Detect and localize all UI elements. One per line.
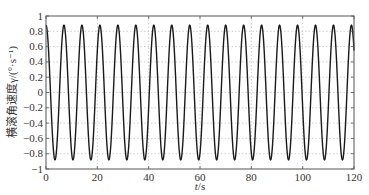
y-tick-label: −0.6: [23, 132, 43, 144]
y-tick-label: 1: [38, 10, 44, 22]
x-tick-label: 20: [92, 171, 104, 183]
y-tick-label: −0.4: [23, 117, 43, 129]
y-tick-label: −0.2: [23, 101, 43, 113]
x-axis-title: t/s: [195, 180, 205, 192]
x-tick-label: 0: [43, 171, 49, 183]
x-tick-label: 120: [346, 171, 363, 183]
y-axis-title: 横滚角速度γ/(°·s⁻¹): [5, 46, 19, 138]
y-tick-label: 0.8: [29, 25, 43, 37]
y-tick-label: 0: [38, 86, 44, 98]
x-tick-label: 100: [294, 171, 311, 183]
y-tick-label: −1: [31, 163, 43, 175]
x-tick-label: 80: [246, 171, 258, 183]
y-tick-label: 0.2: [29, 71, 43, 83]
y-tick-label: 0.6: [29, 40, 43, 52]
y-tick-label: −0.8: [23, 147, 43, 159]
x-tick-label: 40: [143, 171, 155, 183]
y-tick-label: 0.4: [29, 55, 43, 67]
line-chart: 10.80.60.40.20−0.2−0.4−0.6−0.8−1 0204060…: [0, 0, 369, 195]
